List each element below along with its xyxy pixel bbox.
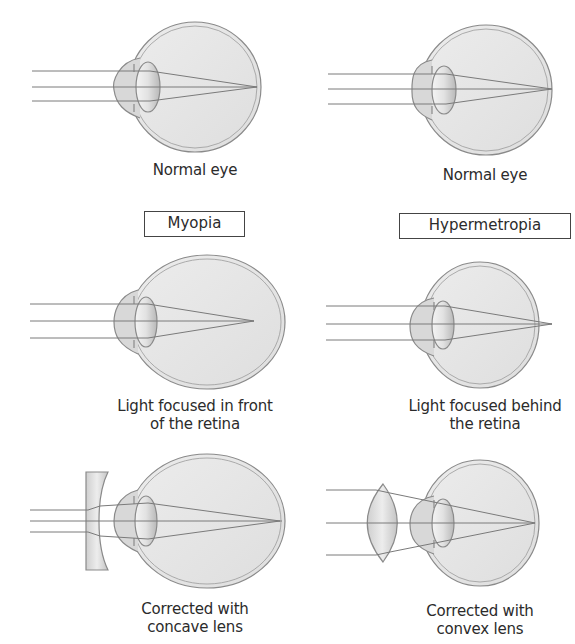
hypermetropia-heading: Hypermetropia [399, 213, 571, 239]
normal-eye-right-panel: Normal eye [290, 0, 575, 200]
myopia-panel: Light focused in front of the retina [0, 240, 290, 410]
convex-caption-line1: Corrected with [410, 602, 550, 620]
hypermetropia-corrected-panel: Corrected with convex lens [290, 410, 575, 644]
concave-caption: Corrected with concave lens [125, 600, 265, 636]
normal-eye-right-caption: Normal eye [420, 166, 550, 184]
concave-caption-line1: Corrected with [125, 600, 265, 618]
myopia-heading: Myopia [144, 211, 245, 237]
convex-caption-line2: convex lens [410, 620, 550, 638]
normal-eye-left-caption: Normal eye [130, 161, 260, 179]
normal-eye-left-panel: Normal eye [0, 0, 290, 200]
hypermetropia-panel: Light focused behind the retina [290, 240, 575, 410]
concave-caption-line2: concave lens [125, 618, 265, 636]
myopia-corrected-panel: Corrected with concave lens [0, 410, 290, 644]
convex-caption: Corrected with convex lens [410, 602, 550, 638]
myopia-eye-illustration [0, 240, 290, 410]
hypermetropia-eye-illustration [290, 240, 575, 410]
